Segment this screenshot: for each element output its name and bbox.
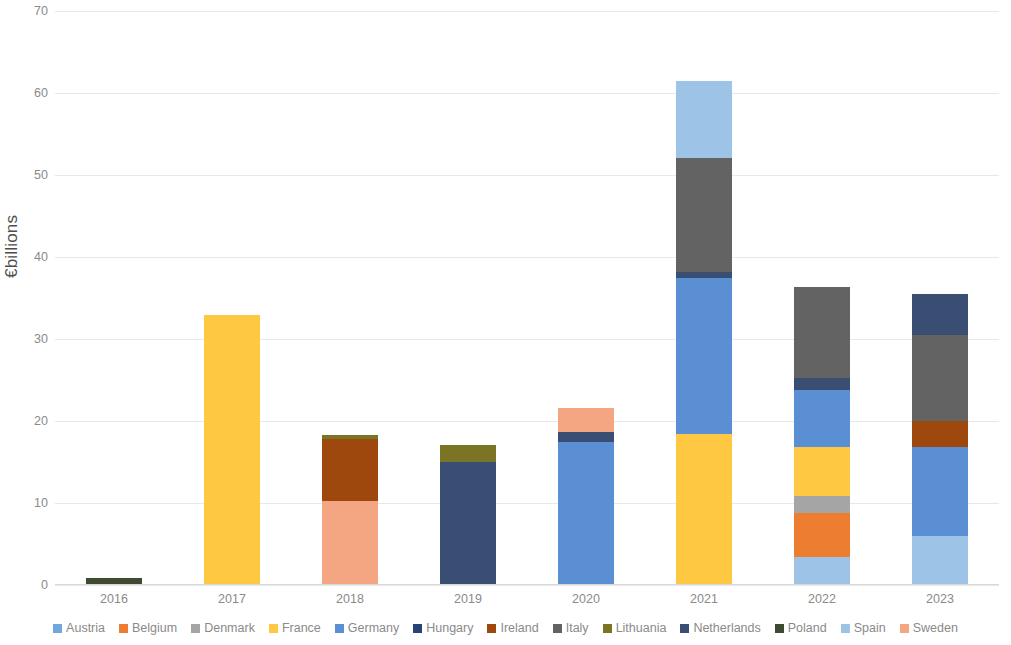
bar-segment-italy[interactable]: [794, 287, 850, 377]
bar-segment-spain[interactable]: [794, 557, 850, 585]
bar-segment-lithuania[interactable]: [440, 445, 496, 462]
legend-swatch-icon: [191, 624, 200, 633]
bar-segment-netherlands[interactable]: [794, 378, 850, 390]
bar-group[interactable]: [558, 11, 614, 585]
legend-swatch-icon: [335, 624, 344, 633]
y-tick-label: 60: [8, 86, 48, 100]
bar-group[interactable]: [676, 11, 732, 585]
bar-segment-belgium[interactable]: [794, 513, 850, 557]
gridline: [55, 421, 999, 422]
legend-swatch-icon: [680, 624, 689, 633]
legend-swatch-icon: [119, 624, 128, 633]
legend-item-italy[interactable]: Italy: [553, 621, 589, 635]
gridline: [55, 585, 999, 586]
legend-item-denmark[interactable]: Denmark: [191, 621, 255, 635]
stacked-bar[interactable]: [322, 435, 378, 585]
legend-label: Spain: [854, 621, 886, 635]
legend-label: Belgium: [132, 621, 177, 635]
gridline: [55, 257, 999, 258]
legend-item-hungary[interactable]: Hungary: [413, 621, 473, 635]
x-tick-label: 2022: [782, 592, 862, 606]
legend-label: Denmark: [204, 621, 255, 635]
legend-item-spain[interactable]: Spain: [841, 621, 886, 635]
bar-group[interactable]: [440, 11, 496, 585]
legend-swatch-icon: [841, 624, 850, 633]
x-tick-label: 2023: [900, 592, 980, 606]
legend-item-france[interactable]: France: [269, 621, 321, 635]
x-tick-label: 2021: [664, 592, 744, 606]
bar-group[interactable]: [204, 11, 260, 585]
y-tick-label: 40: [8, 250, 48, 264]
legend-label: Lithuania: [616, 621, 667, 635]
bar-segment-france[interactable]: [204, 315, 260, 585]
gridline: [55, 93, 999, 94]
gridline: [55, 503, 999, 504]
legend-swatch-icon: [487, 624, 496, 633]
bar-segment-netherlands[interactable]: [676, 272, 732, 278]
legend-item-poland[interactable]: Poland: [775, 621, 827, 635]
stacked-bar[interactable]: [204, 315, 260, 585]
bar-segment-netherlands[interactable]: [912, 294, 968, 335]
legend-swatch-icon: [603, 624, 612, 633]
x-tick-label: 2020: [546, 592, 626, 606]
legend-item-germany[interactable]: Germany: [335, 621, 399, 635]
bar-segment-france[interactable]: [794, 447, 850, 495]
bar-segment-spain[interactable]: [912, 536, 968, 585]
bar-segment-france[interactable]: [676, 434, 732, 585]
bar-segment-lithuania[interactable]: [322, 435, 378, 439]
legend-swatch-icon: [900, 624, 909, 633]
x-tick-label: 2018: [310, 592, 390, 606]
gridline: [55, 11, 999, 12]
stacked-bar-chart: €billions 010203040506070 20162017201820…: [0, 0, 1011, 645]
bar-segment-denmark[interactable]: [794, 496, 850, 513]
bar-segment-germany[interactable]: [912, 447, 968, 536]
y-tick-label: 70: [8, 4, 48, 18]
chart-legend: AustriaBelgiumDenmarkFranceGermanyHungar…: [0, 621, 1011, 635]
bar-segment-italy[interactable]: [676, 158, 732, 272]
stacked-bar[interactable]: [440, 445, 496, 585]
y-tick-label: 20: [8, 414, 48, 428]
plot-area: [55, 11, 999, 585]
bar-segment-netherlands[interactable]: [440, 462, 496, 585]
legend-swatch-icon: [413, 624, 422, 633]
bar-group[interactable]: [322, 11, 378, 585]
legend-swatch-icon: [53, 624, 62, 633]
legend-label: Sweden: [913, 621, 958, 635]
stacked-bar[interactable]: [676, 81, 732, 585]
stacked-bar[interactable]: [912, 294, 968, 585]
y-tick-label: 30: [8, 332, 48, 346]
bar-group[interactable]: [86, 11, 142, 585]
bar-segment-germany[interactable]: [794, 390, 850, 447]
y-tick-label: 10: [8, 496, 48, 510]
bar-segment-italy[interactable]: [912, 335, 968, 421]
legend-item-ireland[interactable]: Ireland: [487, 621, 538, 635]
bar-segment-ireland[interactable]: [322, 439, 378, 501]
bar-segment-sweden[interactable]: [558, 408, 614, 432]
legend-label: France: [282, 621, 321, 635]
stacked-bar[interactable]: [558, 408, 614, 585]
y-axis-tick-labels: 010203040506070: [0, 11, 48, 585]
legend-item-austria[interactable]: Austria: [53, 621, 105, 635]
x-tick-label: 2016: [74, 592, 154, 606]
legend-label: Germany: [348, 621, 399, 635]
legend-swatch-icon: [553, 624, 562, 633]
stacked-bar[interactable]: [794, 287, 850, 585]
bar-segment-ireland[interactable]: [912, 421, 968, 447]
bar-group[interactable]: [912, 11, 968, 585]
legend-item-lithuania[interactable]: Lithuania: [603, 621, 667, 635]
legend-label: Ireland: [500, 621, 538, 635]
bar-segment-sweden[interactable]: [322, 501, 378, 585]
bar-segment-germany[interactable]: [676, 278, 732, 435]
y-tick-label: 0: [8, 578, 48, 592]
bar-segment-netherlands[interactable]: [558, 432, 614, 443]
legend-label: Italy: [566, 621, 589, 635]
bar-segment-spain[interactable]: [676, 81, 732, 158]
legend-item-netherlands[interactable]: Netherlands: [680, 621, 760, 635]
legend-item-belgium[interactable]: Belgium: [119, 621, 177, 635]
bar-group[interactable]: [794, 11, 850, 585]
legend-label: Poland: [788, 621, 827, 635]
y-tick-label: 50: [8, 168, 48, 182]
legend-item-sweden[interactable]: Sweden: [900, 621, 958, 635]
bar-segment-germany[interactable]: [558, 442, 614, 585]
gridline: [55, 339, 999, 340]
